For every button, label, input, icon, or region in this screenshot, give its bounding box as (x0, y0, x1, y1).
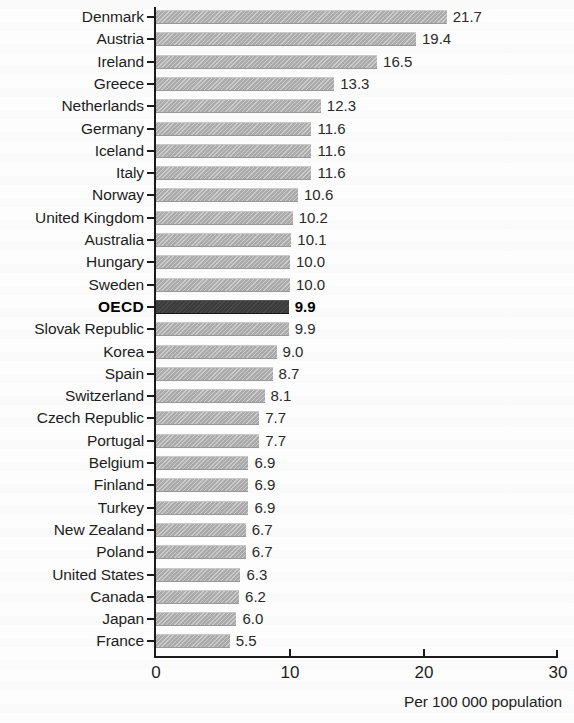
bar (156, 590, 239, 604)
y-axis-tick (147, 306, 155, 308)
category-label: Finland (0, 477, 144, 492)
value-label: 11.6 (317, 166, 345, 180)
category-label: Austria (0, 31, 144, 46)
value-label: 9.9 (295, 322, 316, 336)
category-label: Greece (0, 76, 144, 91)
category-label: Spain (0, 366, 144, 381)
y-axis-tick (147, 618, 155, 620)
y-axis-tick (147, 217, 155, 219)
bar-row: Ireland16.5 (0, 53, 574, 75)
value-label: 6.0 (242, 612, 263, 626)
bar-row: Denmark21.7 (0, 8, 574, 30)
bar (156, 478, 248, 492)
bar (156, 233, 291, 247)
value-label: 10.2 (299, 211, 328, 225)
bar-row: Norway10.6 (0, 186, 574, 208)
category-label: Australia (0, 232, 144, 247)
bar-chart: Denmark21.7Austria19.4Ireland16.5Greece1… (0, 0, 574, 723)
bar (156, 612, 236, 626)
bar-row: Hungary10.0 (0, 253, 574, 275)
bar-row: Sweden10.0 (0, 276, 574, 298)
x-axis-tick-label: 0 (151, 664, 160, 682)
y-axis-tick (147, 284, 155, 286)
y-axis-tick (147, 172, 155, 174)
bar-row: Austria19.4 (0, 30, 574, 52)
value-label: 8.7 (279, 367, 300, 381)
category-label: Poland (0, 544, 144, 559)
value-label: 12.3 (327, 99, 356, 113)
y-axis-tick (147, 640, 155, 642)
category-label: Canada (0, 589, 144, 604)
bar-row: Greece13.3 (0, 75, 574, 97)
y-axis-tick (147, 16, 155, 18)
y-axis-tick (147, 239, 155, 241)
y-axis-tick (147, 551, 155, 553)
value-label: 6.3 (246, 568, 267, 582)
y-axis-tick (147, 38, 155, 40)
category-label: Netherlands (0, 98, 144, 113)
bar (156, 568, 240, 582)
y-axis-tick (147, 395, 155, 397)
category-label: Belgium (0, 455, 144, 470)
bar (156, 367, 273, 381)
bar (156, 55, 377, 69)
bar-row: Germany11.6 (0, 120, 574, 142)
bar-row: Belgium6.9 (0, 454, 574, 476)
y-axis-tick (147, 105, 155, 107)
y-axis-tick (147, 462, 155, 464)
x-axis-line (154, 656, 558, 658)
bar (156, 434, 259, 448)
bar (156, 99, 321, 113)
y-axis-tick (147, 507, 155, 509)
value-label: 16.5 (383, 55, 412, 69)
bar-row: Poland6.7 (0, 543, 574, 565)
bar-row: Iceland11.6 (0, 142, 574, 164)
value-label: 8.1 (271, 389, 292, 403)
bar (156, 255, 290, 269)
bar-row: Korea9.0 (0, 343, 574, 365)
y-axis-tick (147, 596, 155, 598)
bar (156, 523, 246, 537)
category-label: Ireland (0, 54, 144, 69)
bar (156, 166, 311, 180)
category-label: New Zealand (0, 522, 144, 537)
bar (156, 545, 246, 559)
bar (156, 300, 289, 314)
category-label: Portugal (0, 433, 144, 448)
bar (156, 188, 298, 202)
category-label: Korea (0, 344, 144, 359)
bar (156, 345, 277, 359)
value-label: 10.0 (296, 255, 325, 269)
y-axis-tick (147, 440, 155, 442)
x-axis-tick-label: 20 (415, 664, 434, 682)
category-label: Italy (0, 165, 144, 180)
y-axis-tick (147, 150, 155, 152)
value-label: 11.6 (317, 144, 345, 158)
bar (156, 389, 265, 403)
value-label: 10.0 (296, 278, 325, 292)
y-axis-tick (147, 128, 155, 130)
bar-row: United Kingdom10.2 (0, 209, 574, 231)
bar (156, 411, 259, 425)
bar-row: Turkey6.9 (0, 499, 574, 521)
value-label: 6.7 (252, 523, 273, 537)
x-axis-title: Per 100 000 population (404, 693, 562, 710)
bar (156, 211, 293, 225)
y-axis-tick (147, 194, 155, 196)
value-label: 21.7 (453, 10, 482, 24)
x-axis-tick (289, 649, 291, 657)
bar (156, 501, 248, 515)
value-label: 13.3 (340, 77, 369, 91)
bar-row: OECD9.9 (0, 298, 574, 320)
value-label: 9.9 (295, 300, 316, 314)
value-label: 6.9 (254, 501, 275, 515)
y-axis-tick (147, 574, 155, 576)
category-label: Sweden (0, 277, 144, 292)
bar-row: Portugal7.7 (0, 432, 574, 454)
y-axis-tick (147, 83, 155, 85)
bar-row: United States6.3 (0, 566, 574, 588)
y-axis-tick (147, 351, 155, 353)
y-axis-tick (147, 61, 155, 63)
bar-row: Czech Republic7.7 (0, 409, 574, 431)
category-label: Japan (0, 611, 144, 626)
